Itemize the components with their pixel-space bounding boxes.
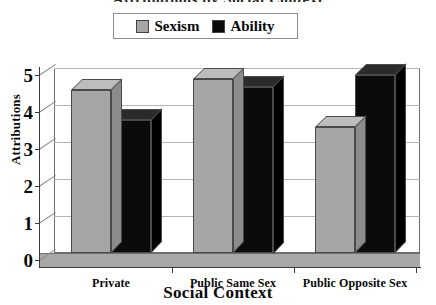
bar-side-face xyxy=(355,116,366,253)
y-axis-tick-mark xyxy=(35,186,40,187)
bar-side-face xyxy=(111,79,122,253)
bar-side-face xyxy=(395,64,406,253)
bar-front-face xyxy=(315,127,355,253)
y-axis-tick-label: 1 xyxy=(24,214,34,233)
y-axis-tick-label: 2 xyxy=(24,177,34,196)
x-axis-tick-mark xyxy=(294,267,295,273)
x-axis-tick-mark xyxy=(416,267,417,273)
bar-sexism-2 xyxy=(315,127,355,253)
y-axis-tick-label: 3 xyxy=(24,140,34,159)
bar-side-face xyxy=(273,75,284,253)
y-axis-tick-mark xyxy=(35,223,40,224)
y-axis-tick-label: 5 xyxy=(24,66,34,85)
y-axis-tick-mark xyxy=(35,149,40,150)
bar-front-face xyxy=(193,79,233,253)
y-axis-tick-mark xyxy=(35,112,40,113)
bar-side-face xyxy=(151,108,162,253)
plot-floor xyxy=(40,253,420,267)
chart-title-fragment: Attributions by Social Context xyxy=(0,0,436,2)
plot-area: 012345 PrivatePublic Same SexPublic Oppo… xyxy=(54,68,420,253)
legend-swatch-ability-icon xyxy=(212,20,225,33)
x-axis-title: Social Context xyxy=(0,283,436,303)
bar-front-face xyxy=(71,90,111,253)
bar-sexism-0 xyxy=(71,90,111,253)
y-axis-line xyxy=(39,67,40,268)
x-axis-line xyxy=(39,267,421,268)
chart-legend: Sexism Ability xyxy=(113,13,298,39)
y-axis-tick-label: 4 xyxy=(24,103,34,122)
y-axis-tick-mark xyxy=(35,75,40,76)
x-axis-tick-mark xyxy=(172,267,173,273)
plot-left-wall xyxy=(40,68,54,253)
legend-label-sexism: Sexism xyxy=(154,19,199,34)
bar-sexism-1 xyxy=(193,79,233,253)
y-axis-tick-mark xyxy=(35,260,40,261)
legend-entry-sexism: Sexism xyxy=(136,19,199,34)
bar-chart: Attributions by Social Context Sexism Ab… xyxy=(0,0,436,305)
legend-swatch-sexism-icon xyxy=(136,20,149,33)
y-axis-tick-label: 0 xyxy=(24,251,34,270)
legend-entry-ability: Ability xyxy=(212,19,274,34)
legend-label-ability: Ability xyxy=(230,19,274,34)
bar-side-face xyxy=(233,68,244,253)
y-axis-title: Attributions xyxy=(8,94,24,165)
